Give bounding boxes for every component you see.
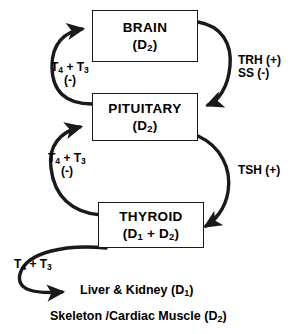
edge-label-tsh-text: TSH (+) — [238, 163, 280, 177]
edge-label-ss: SS (-) — [238, 67, 281, 81]
target-skeleton-cardiac: Skeleton /Cardiac Muscle (D2) — [50, 309, 227, 323]
edge-label-pituitary-feedback-hormone: T4 + T3 — [48, 151, 86, 165]
node-thyroid-label: THYROID — [119, 209, 183, 224]
edge-label-trh-ss: TRH (+) SS (-) — [238, 54, 281, 81]
edge-label-brain-feedback: T4 + T3 (-) — [51, 61, 89, 88]
node-brain-deiodinase: (D2) — [133, 37, 158, 52]
diagram-canvas: BRAIN (D2) PITUITARY (D2) THYROID (D1 + … — [0, 0, 302, 334]
node-pituitary-deiodinase: (D2) — [133, 118, 158, 133]
edge-label-pituitary-feedback: T4 + T3 (-) — [48, 152, 86, 179]
edge-label-pituitary-feedback-sign: (-) — [48, 165, 86, 179]
node-pituitary[interactable]: PITUITARY (D2) — [92, 93, 198, 141]
node-thyroid[interactable]: THYROID (D1 + D2) — [98, 202, 204, 248]
node-brain-label: BRAIN — [123, 20, 168, 35]
arrow-brain-to-pituitary-trh — [198, 22, 230, 105]
edge-label-peripheral-hormone: T4 + T3 — [14, 258, 52, 272]
target-liver-kidney: Liver & Kidney (D1) — [80, 283, 193, 297]
edge-label-brain-feedback-hormone: T4 + T3 — [51, 60, 89, 74]
edge-label-tsh: TSH (+) — [238, 164, 280, 178]
node-pituitary-label: PITUITARY — [108, 101, 181, 116]
edge-label-trh: TRH (+) — [238, 53, 281, 67]
node-thyroid-deiodinase: (D1 + D2) — [123, 226, 179, 241]
edge-label-brain-feedback-sign: (-) — [51, 74, 89, 88]
node-brain[interactable]: BRAIN (D2) — [92, 10, 198, 62]
edge-label-peripheral-hormone-text: T4 + T3 — [14, 257, 52, 271]
